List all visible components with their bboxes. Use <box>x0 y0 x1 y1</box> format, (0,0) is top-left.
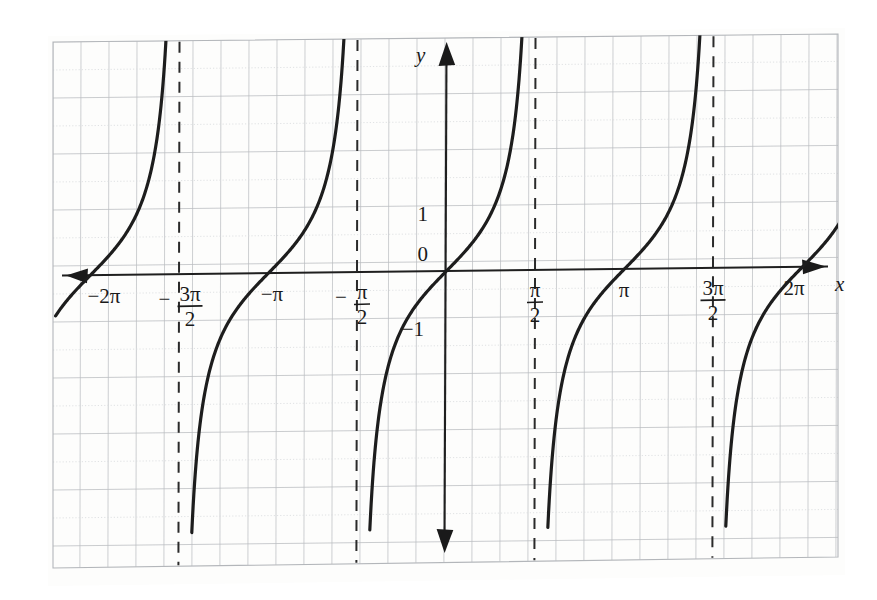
x-tick-neg-pi: −π <box>261 282 284 306</box>
y-tick-y-neg-one: −1 <box>402 317 424 341</box>
x-tick-pi-2-denominator: 2 <box>530 303 541 327</box>
x-tick-neg-pi-2-sign: − <box>335 285 347 309</box>
x-tick-3pi-2-numerator: 3π <box>702 276 724 300</box>
x-tick-pi: π <box>619 278 630 302</box>
x-tick-neg-3pi-2-numerator: 3π <box>179 282 201 306</box>
x-tick-neg-3pi-2-sign: − <box>159 287 171 311</box>
x-tick-neg-3pi-2-denominator: 2 <box>185 307 196 331</box>
x-tick-neg-pi-2-denominator: 2 <box>357 305 368 329</box>
x-tick-pi-2-numerator: π <box>530 278 541 302</box>
x-axis-label: x <box>834 272 845 296</box>
tangent-graph-figure: −2π−3π2−π−π2π2π3π22π10−1 x y <box>0 0 877 600</box>
x-tick-neg-2pi: −2π <box>88 284 121 308</box>
x-tick-2pi: 2π <box>783 276 805 300</box>
figure-page: −2π−3π2−π−π2π2π3π22π10−1 x y <box>0 0 877 600</box>
x-tick-3pi-2-denominator: 2 <box>708 301 719 325</box>
y-axis-label: y <box>414 43 426 67</box>
y-tick-y-zero: 0 <box>418 242 429 266</box>
x-tick-neg-pi-2-numerator: π <box>357 280 368 304</box>
y-tick-y-one: 1 <box>418 202 429 226</box>
